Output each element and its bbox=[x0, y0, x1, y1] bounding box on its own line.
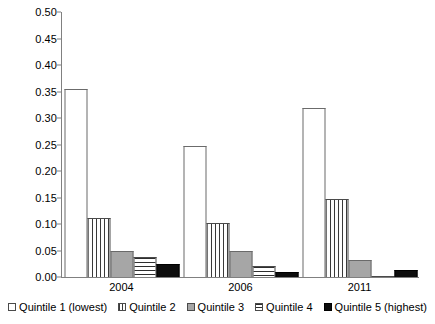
bar bbox=[275, 272, 298, 277]
x-axis-tick-label: 2011 bbox=[300, 281, 419, 294]
bar bbox=[206, 223, 229, 277]
legend-swatch-icon bbox=[187, 303, 195, 311]
bar-group bbox=[181, 12, 300, 277]
chart-legend: Quintile 1 (lowest)Quintile 2Quintile 3Q… bbox=[0, 301, 435, 313]
x-axis-tick-label: 2004 bbox=[62, 281, 181, 294]
legend-swatch-icon bbox=[8, 303, 16, 311]
y-axis-tick-mark bbox=[57, 197, 61, 198]
bar-group-bars bbox=[302, 12, 417, 277]
y-axis-tick-mark bbox=[57, 171, 61, 172]
legend-item[interactable]: Quintile 1 (lowest) bbox=[8, 301, 107, 313]
y-axis-tick-label: 0.35 bbox=[35, 86, 57, 97]
y-axis-tick-mark bbox=[57, 224, 61, 225]
bar bbox=[64, 89, 87, 277]
bar bbox=[252, 266, 275, 277]
legend-item-label: Quintile 5 (highest) bbox=[335, 301, 427, 313]
legend-item[interactable]: Quintile 3 bbox=[187, 301, 244, 313]
bar bbox=[394, 270, 417, 277]
bar bbox=[348, 260, 371, 277]
bar-group-bars bbox=[64, 12, 179, 277]
legend-item-label: Quintile 3 bbox=[198, 301, 244, 313]
y-axis-tick-label: 0.05 bbox=[35, 245, 57, 256]
bar bbox=[183, 146, 206, 277]
y-axis-tick-mark bbox=[57, 144, 61, 145]
legend-item[interactable]: Quintile 5 (highest) bbox=[324, 301, 427, 313]
bar-group-bars bbox=[183, 12, 298, 277]
y-axis-tick-label: 0.15 bbox=[35, 192, 57, 203]
y-axis-tick-label: 0.10 bbox=[35, 219, 57, 230]
legend-swatch-icon bbox=[255, 303, 263, 311]
y-axis-tick-mark bbox=[57, 277, 61, 278]
x-axis-tick-labels: 200420062011 bbox=[62, 281, 419, 294]
bar-group bbox=[300, 12, 419, 277]
bar bbox=[87, 218, 110, 277]
y-axis-tick-mark bbox=[57, 91, 61, 92]
x-axis-tick-label: 2006 bbox=[181, 281, 300, 294]
legend-swatch-icon bbox=[118, 303, 126, 311]
bar bbox=[302, 108, 325, 277]
bar bbox=[229, 251, 252, 278]
bar bbox=[110, 251, 133, 278]
y-axis-tick-mark bbox=[57, 118, 61, 119]
y-axis-tick-mark bbox=[57, 12, 61, 13]
y-axis-tick-label: 0.00 bbox=[35, 272, 57, 283]
bar bbox=[325, 199, 348, 277]
x-axis-line bbox=[61, 277, 419, 278]
legend-swatch-icon bbox=[324, 303, 332, 311]
legend-item-label: Quintile 4 bbox=[266, 301, 312, 313]
y-axis-tick-label: 0.50 bbox=[35, 7, 57, 18]
legend-item[interactable]: Quintile 2 bbox=[118, 301, 175, 313]
plot-area bbox=[62, 12, 419, 277]
y-axis-tick-label: 0.45 bbox=[35, 33, 57, 44]
bar bbox=[156, 264, 179, 277]
y-axis-tick-labels: 0.000.050.100.150.200.250.300.350.400.45… bbox=[0, 0, 57, 324]
legend-item-label: Quintile 1 (lowest) bbox=[19, 301, 107, 313]
y-axis-tick-label: 0.40 bbox=[35, 60, 57, 71]
y-axis-tick-mark bbox=[57, 65, 61, 66]
legend-item[interactable]: Quintile 4 bbox=[255, 301, 312, 313]
bar bbox=[371, 276, 394, 277]
bar-chart: 0.000.050.100.150.200.250.300.350.400.45… bbox=[0, 0, 435, 324]
legend-item-label: Quintile 2 bbox=[129, 301, 175, 313]
y-axis-tick-label: 0.30 bbox=[35, 113, 57, 124]
bar-group bbox=[62, 12, 181, 277]
y-axis-tick-mark bbox=[57, 38, 61, 39]
y-axis-tick-label: 0.25 bbox=[35, 139, 57, 150]
bar bbox=[133, 257, 156, 277]
y-axis-tick-mark bbox=[57, 250, 61, 251]
y-axis-tick-label: 0.20 bbox=[35, 166, 57, 177]
